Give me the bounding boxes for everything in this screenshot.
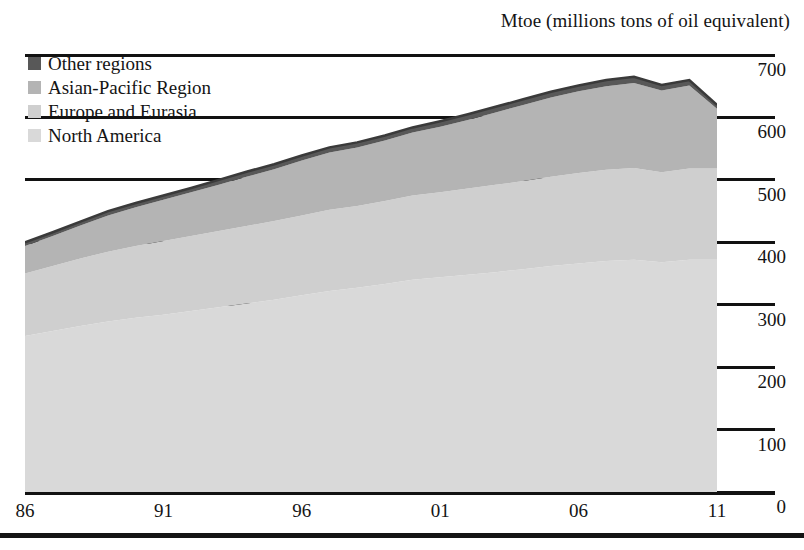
legend-item-label: Other regions (48, 54, 152, 73)
x-tick-label-86: 86 (5, 500, 45, 522)
y-tick-label-400: 400 (722, 246, 786, 268)
legend-swatch-icon (28, 129, 41, 142)
legend-item-label: Asian-Pacific Region (48, 78, 211, 97)
legend-item[interactable]: Other regions (28, 52, 211, 75)
legend-item[interactable]: North America (28, 124, 211, 147)
y-tick-label-600: 600 (722, 121, 786, 143)
x-tick-label-06: 06 (559, 500, 599, 522)
x-tick-label-01: 01 (420, 500, 460, 522)
chart-title: Mtoe (millions tons of oil equivalent) (501, 10, 790, 32)
y-tick-label-200: 200 (722, 371, 786, 393)
chart-legend: Other regions Asian-Pacific Region Europ… (28, 52, 211, 148)
chart-root: Mtoe (millions tons of oil equivalent) 7… (0, 0, 804, 550)
x-axis-line (25, 492, 775, 495)
y-tick-label-500: 500 (722, 184, 786, 206)
legend-swatch-icon (28, 105, 41, 118)
y-tick-label-100: 100 (722, 434, 786, 456)
legend-item-label: Europe and Eurasia (48, 102, 197, 121)
figure-bottom-rule (0, 533, 804, 538)
legend-swatch-icon (28, 57, 41, 70)
x-tick-label-11: 11 (697, 500, 737, 522)
x-tick-label-91: 91 (143, 500, 183, 522)
legend-swatch-icon (28, 81, 41, 94)
x-tick-label-96: 96 (282, 500, 322, 522)
legend-item[interactable]: Europe and Eurasia (28, 100, 211, 123)
y-tick-label-700: 700 (722, 59, 786, 81)
y-tick-label-300: 300 (722, 309, 786, 331)
legend-item-label: North America (48, 126, 161, 145)
legend-item[interactable]: Asian-Pacific Region (28, 76, 211, 99)
